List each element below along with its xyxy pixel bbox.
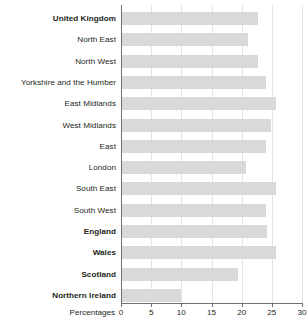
bar bbox=[122, 97, 276, 110]
bar bbox=[122, 119, 271, 132]
category-label: South East bbox=[0, 184, 116, 193]
x-tick-label-25: 25 bbox=[260, 308, 284, 318]
bar bbox=[122, 225, 267, 238]
bar bbox=[122, 76, 266, 89]
x-tick-20 bbox=[242, 303, 243, 307]
x-axis-title: Percentages bbox=[70, 308, 115, 318]
bar bbox=[122, 289, 181, 302]
x-tick-5 bbox=[151, 303, 152, 307]
category-label: East bbox=[0, 142, 116, 151]
category-label: West Midlands bbox=[0, 121, 116, 130]
bar bbox=[122, 268, 238, 281]
bar bbox=[122, 55, 258, 68]
category-label: Yorkshire and the Humber bbox=[0, 78, 116, 87]
gridline-30 bbox=[302, 5, 303, 303]
bar bbox=[122, 204, 266, 217]
category-label: Scotland bbox=[0, 270, 116, 279]
x-tick-10 bbox=[181, 303, 182, 307]
category-label: South West bbox=[0, 206, 116, 215]
category-label: East Midlands bbox=[0, 99, 116, 108]
bar bbox=[122, 182, 276, 195]
category-label: North West bbox=[0, 57, 116, 66]
category-label: United Kingdom bbox=[0, 14, 116, 23]
x-tick-15 bbox=[212, 303, 213, 307]
bar-chart: United KingdomNorth EastNorth WestYorksh… bbox=[0, 0, 307, 330]
x-tick-label-15: 15 bbox=[200, 308, 224, 318]
bar bbox=[122, 140, 266, 153]
x-tick-30 bbox=[302, 303, 303, 307]
category-label-column: United KingdomNorth EastNorth WestYorksh… bbox=[0, 0, 116, 303]
category-label: Northern Ireland bbox=[0, 291, 116, 300]
x-tick-label-30: 30 bbox=[290, 308, 307, 318]
bar bbox=[122, 161, 246, 174]
x-tick-label-20: 20 bbox=[230, 308, 254, 318]
category-label: England bbox=[0, 227, 116, 236]
bar bbox=[122, 12, 258, 25]
bar bbox=[122, 33, 248, 46]
category-label: Wales bbox=[0, 248, 116, 257]
x-tick-25 bbox=[272, 303, 273, 307]
bar bbox=[122, 246, 276, 259]
x-tick-label-10: 10 bbox=[169, 308, 193, 318]
category-label: North East bbox=[0, 35, 116, 44]
category-label: London bbox=[0, 163, 116, 172]
x-tick-0 bbox=[121, 303, 122, 307]
plot-area bbox=[121, 5, 302, 303]
x-tick-label-5: 5 bbox=[139, 308, 163, 318]
